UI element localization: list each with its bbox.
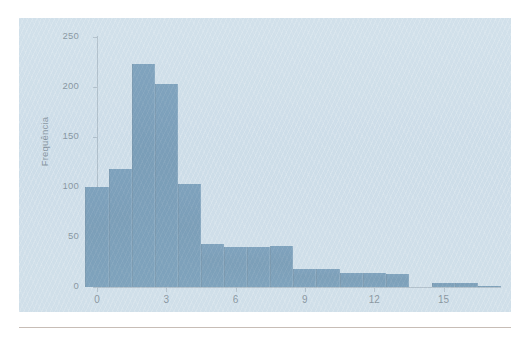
page-divider-rule: [19, 327, 511, 328]
histogram-bar: [340, 273, 363, 287]
histogram-bars: [19, 18, 511, 312]
histogram-bar: [247, 247, 270, 287]
histogram-bar: [478, 286, 501, 288]
histogram-bar: [455, 283, 478, 287]
histogram-bar: [178, 184, 201, 287]
histogram-bar: [270, 246, 293, 287]
histogram-figure: Frequência 050100150200250 03691215: [19, 18, 511, 312]
histogram-bar: [132, 64, 155, 287]
histogram-bar: [293, 269, 316, 287]
histogram-bar: [201, 244, 224, 287]
histogram-bar: [316, 269, 339, 287]
histogram-bar: [363, 273, 386, 287]
histogram-bar: [386, 274, 409, 287]
histogram-bar: [224, 247, 247, 287]
histogram-bar: [432, 283, 455, 287]
histogram-bar: [109, 169, 132, 287]
histogram-bar: [85, 187, 108, 287]
histogram-bar: [155, 84, 178, 287]
